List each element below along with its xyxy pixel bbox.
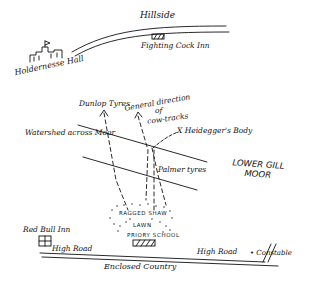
label-constable: • Constable [250, 250, 292, 257]
label-priory-school: PRIORY SCHOOL [127, 233, 180, 239]
label-hillside: Hillside [140, 11, 175, 20]
label-dunlop-tyres: Dunlop Tyres [79, 100, 130, 108]
label-enclosed-country: Enclosed Country [104, 263, 176, 271]
cowtrack-left [138, 116, 148, 200]
label-heidegger-body: X Heidegger's Body [177, 127, 252, 135]
label-lawn: LAWN [133, 223, 152, 229]
label-of: of [155, 107, 162, 115]
cowtrack-right [152, 148, 166, 205]
label-high-road-left: High Road [52, 245, 92, 253]
label-red-bull-inn: Red Bull Inn [23, 226, 70, 234]
heidegger-pointer [153, 132, 178, 148]
label-fighting-cock-inn: Fighting Cock Inn [141, 42, 210, 50]
label-ragged-shaw: RAGGED SHAW [119, 211, 167, 217]
label-palmer-tyres: Palmer tyres [158, 166, 206, 174]
label-high-road-right: High Road [197, 248, 237, 256]
label-lower-gill-moor: LOWER GILL MOOR [227, 158, 288, 182]
label-watershed: Watershed across Moor [25, 129, 115, 137]
